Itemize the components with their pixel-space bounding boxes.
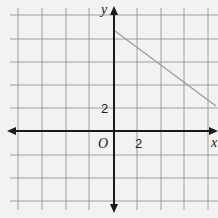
x-axis-label: x: [211, 136, 217, 150]
x-axis: [7, 127, 218, 135]
x-tick-label-2: 2: [135, 137, 142, 150]
y-axis-label: y: [101, 3, 107, 17]
plotted-line: [115, 31, 216, 106]
y-axis: [110, 6, 118, 213]
y-axis-down-arrow-icon: [110, 204, 118, 213]
origin-label: O: [98, 137, 108, 151]
y-axis-up-arrow-icon: [110, 6, 118, 15]
x-axis-right-arrow-icon: [209, 127, 218, 135]
coordinate-plane: [0, 0, 218, 218]
y-tick-label-2: 2: [101, 102, 108, 115]
x-axis-left-arrow-icon: [7, 127, 16, 135]
